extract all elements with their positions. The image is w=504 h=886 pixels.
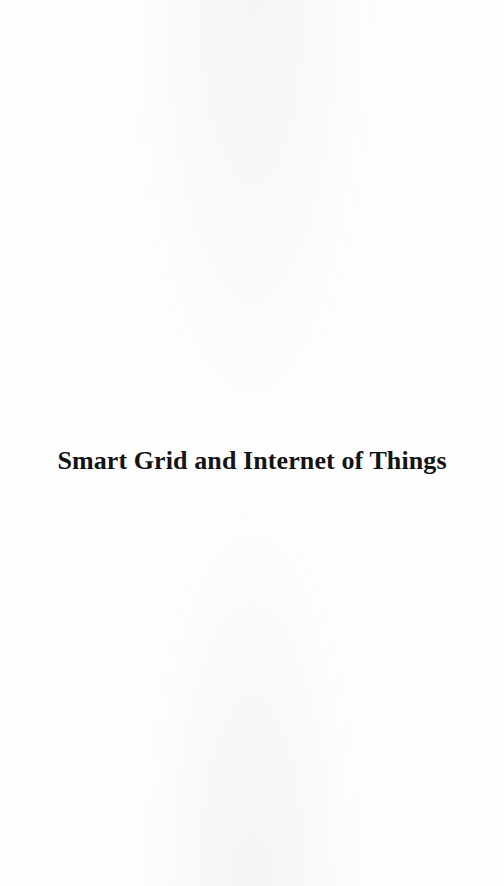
half-title: Smart Grid and Internet of Things [0,446,504,476]
book-page: Smart Grid and Internet of Things [0,0,504,886]
